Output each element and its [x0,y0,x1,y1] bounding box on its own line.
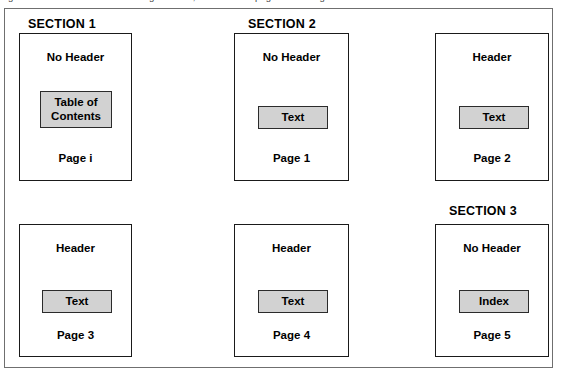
page-number-4: Page 3 [20,329,131,341]
figure-caption: Figure: document structure showing secti… [0,0,561,3]
page-number-1: Page i [20,152,131,164]
page-box-5[interactable]: Header Text Page 4 [234,224,349,357]
content-block-index[interactable]: Index [459,290,529,313]
content-block-text-2[interactable]: Text [459,106,529,129]
content-block-text-3[interactable]: Text [42,290,112,313]
page-header-3: Header [436,51,548,63]
page-number-6: Page 5 [436,329,548,341]
section-label-2: SECTION 2 [248,17,316,31]
page-header-1: No Header [20,51,131,63]
section-label-3: SECTION 3 [449,204,517,218]
page-box-6[interactable]: No Header Index Page 5 [435,224,549,357]
page-box-2[interactable]: No Header Text Page 1 [234,33,349,181]
page-number-3: Page 2 [436,152,548,164]
page-number-2: Page 1 [235,152,348,164]
diagram-frame: SECTION 1 SECTION 2 SECTION 3 No Header … [4,8,553,368]
content-block-text-4[interactable]: Text [258,290,328,313]
figure-caption-text: Figure: document structure showing secti… [0,0,561,3]
page-number-5: Page 4 [235,329,348,341]
page-box-1[interactable]: No Header Table of Contents Page i [19,33,132,181]
page-box-3[interactable]: Header Text Page 2 [435,33,549,181]
content-block-text-1[interactable]: Text [258,106,328,129]
page-header-2: No Header [235,51,348,63]
section-label-1: SECTION 1 [28,17,96,31]
page-header-4: Header [20,242,131,254]
page-header-6: No Header [436,242,548,254]
content-block-table-of-contents[interactable]: Table of Contents [40,91,112,128]
page-box-4[interactable]: Header Text Page 3 [19,224,132,357]
page-header-5: Header [235,242,348,254]
